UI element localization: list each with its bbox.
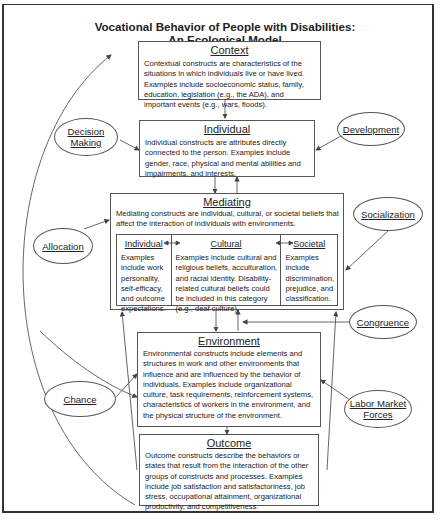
environment-box: Environment Environmental constructs inc…: [137, 332, 321, 427]
col-individual-text: Examples include work personality, self-…: [117, 249, 171, 315]
col-societal-text: Examples include discrimination, prejudi…: [281, 249, 337, 304]
column-bidirectional-arrows: [111, 194, 345, 254]
individual-heading: Individual: [140, 123, 314, 135]
outcome-box: Outcome Outcome constructs describe the …: [139, 434, 319, 506]
oval-socialization: Socialization: [353, 197, 423, 231]
individual-text: Individual constructs are attributes dir…: [140, 135, 314, 179]
oval-allocation: Allocation: [33, 228, 93, 264]
oval-decision-making: DecisionMaking: [54, 118, 118, 156]
context-heading: Context: [139, 44, 320, 56]
oval-labor-market-forces: Labor MarketForces: [344, 390, 412, 428]
outcome-text: Outcome constructs describe the behavior…: [140, 449, 318, 513]
environment-text: Environmental constructs include element…: [138, 347, 320, 421]
environment-heading: Environment: [138, 335, 320, 347]
oval-congruence: Congruence: [349, 305, 417, 339]
context-text: Contextual constructs are characteristic…: [139, 56, 320, 110]
individual-box: Individual Individual constructs are att…: [139, 120, 315, 177]
col-cultural-text: Examples include cultural and religious …: [172, 249, 281, 315]
oval-chance: Chance: [44, 381, 116, 417]
outcome-heading: Outcome: [140, 437, 318, 449]
context-box: Context Contextual constructs are charac…: [138, 41, 321, 100]
mediating-box: Mediating Mediating constructs are indiv…: [110, 193, 344, 310]
oval-development: Development: [337, 112, 405, 146]
